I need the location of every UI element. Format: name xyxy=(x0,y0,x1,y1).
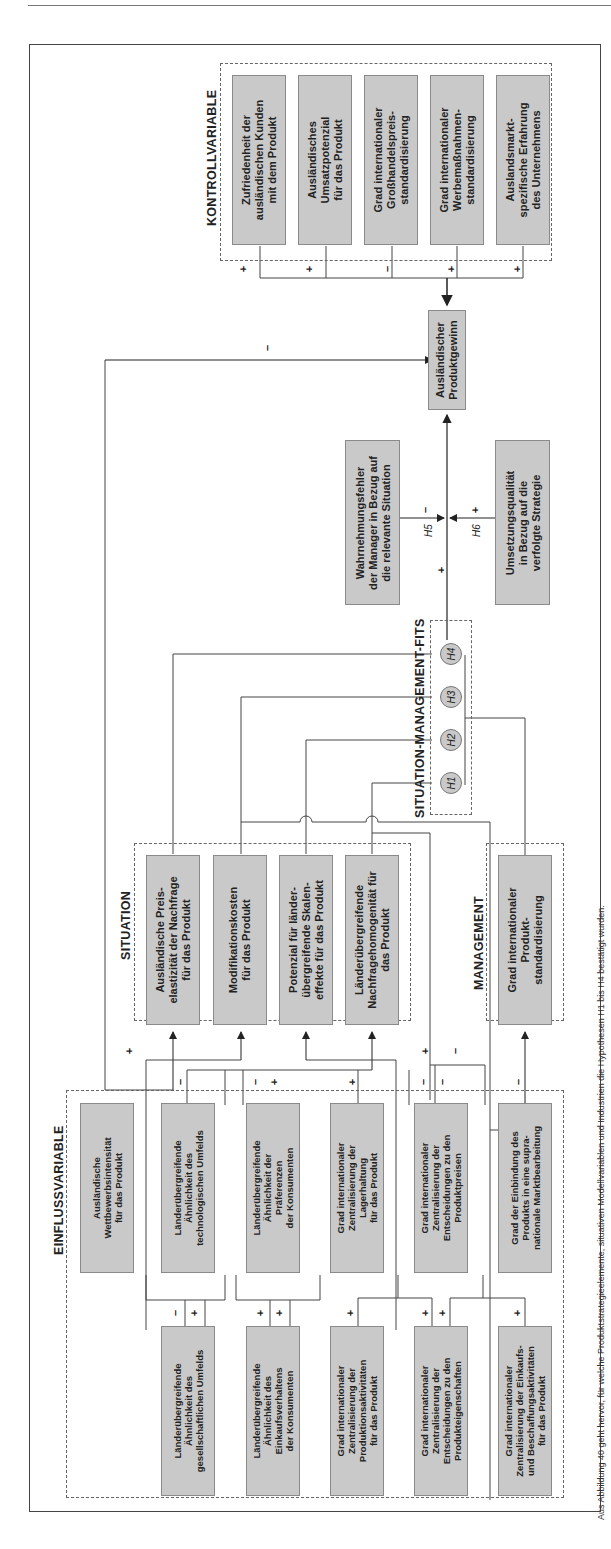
sign: + xyxy=(446,264,456,274)
hypothesis-h2-node: H2 xyxy=(440,729,462,751)
sign: + xyxy=(345,1308,355,1318)
einfluss-box-technologisches-umfeld: Länderübergreifende Ähnlichkeit des tech… xyxy=(161,1103,215,1273)
sign: – xyxy=(175,1077,185,1087)
situation-box-modifikationskosten: Modifikationskosten für das Produkt xyxy=(213,855,267,1025)
sign: – xyxy=(513,1077,523,1087)
hypothesis-h6-label: H6 xyxy=(471,524,482,537)
sign: – xyxy=(418,1077,428,1087)
sign: – xyxy=(450,1046,460,1056)
situation-box-skaleneffekte: Potenzial für länder- übergreifende Skal… xyxy=(279,855,333,1025)
moderator-box-umsetzungsqualitaet: Umsetzungsqualität in Bezug auf die verf… xyxy=(495,440,550,605)
einfluss-box-produktpreise: Grad internationaler Zentralisierung der… xyxy=(414,1103,468,1273)
management-box-produktstandardisierung: Grad internationaler Produkt- standardis… xyxy=(498,855,552,1025)
kontroll-box-kundenzufriedenheit: Zufriedenheit der ausländischen Kunden m… xyxy=(232,75,286,245)
sign: + xyxy=(255,1308,265,1318)
einfluss-box-praeferenzen: Länderübergreifende Ähnlichkeit der Präf… xyxy=(246,1103,300,1273)
sign: – xyxy=(262,343,272,353)
moderator-box-wahrnehmungsfehler: Wahrnehmungsfehler der Manager in Bezug … xyxy=(345,440,400,605)
sign: – xyxy=(170,1308,180,1318)
einfluss-group-label: EINFLUSSVARIABLE xyxy=(52,1125,66,1255)
kontroll-box-auslandserfahrung: Auslandsmarkt- spezifische Erfahrung des… xyxy=(496,75,550,245)
sign: + xyxy=(420,1046,430,1056)
fits-group-label: SITUATION-MANAGEMENT-FITS xyxy=(413,618,427,818)
outcome-box-produktgewinn: Ausländischer Produktgewinn xyxy=(428,310,466,410)
kontroll-box-umsatzpotenzial: Ausländisches Umsatzpotenzial für das Pr… xyxy=(298,75,352,245)
sign: + xyxy=(436,565,446,575)
situation-box-preiselastizitaet: Ausländische Preis- elastizität der Nach… xyxy=(146,855,200,1025)
situation-group-label: SITUATION xyxy=(119,891,133,960)
hypothesis-h1-node: H1 xyxy=(440,772,462,794)
sign: + xyxy=(269,1077,279,1087)
sign: + xyxy=(124,1046,134,1056)
sign: + xyxy=(304,264,314,274)
einfluss-box-einkaufsverhalten: Länderübergreifende Ähnlichkeit des Eink… xyxy=(246,1326,300,1496)
sign: + xyxy=(238,264,248,274)
einfluss-box-supranationale-marktbearbeitung: Grad der Einbindung des Produkts in eine… xyxy=(498,1103,552,1273)
kontroll-box-grosshandelspreis: Grad internationaler Großhandelspreis- s… xyxy=(364,75,418,245)
sign: + xyxy=(189,1308,199,1318)
kontroll-box-werbemassnahmen: Grad internationaler Werbemaßnahmen- sta… xyxy=(430,75,484,245)
sign: + xyxy=(470,505,480,515)
einfluss-box-produkteigenschaften: Grad internationaler Zentralisierung der… xyxy=(414,1326,468,1496)
sign: + xyxy=(437,1308,447,1318)
sign: – xyxy=(382,264,392,274)
sign: + xyxy=(274,1308,284,1318)
sign: – xyxy=(437,1077,447,1087)
einfluss-box-einkauf-beschaffung: Grad internationaler Zentralisierung der… xyxy=(498,1326,552,1496)
sign: + xyxy=(512,264,522,274)
hypothesis-h5-label: H5 xyxy=(423,524,434,537)
figure-caption: Aus Abbildung 40 geht hervor, für welche… xyxy=(596,905,606,1520)
sign: + xyxy=(512,1308,522,1318)
einfluss-box-lagerhaltung: Grad internationaler Zentralisierung der… xyxy=(330,1103,384,1273)
einfluss-group xyxy=(66,1090,564,1498)
einfluss-box-produktionsaktivitaeten: Grad internationaler Zentralisierung der… xyxy=(330,1326,384,1496)
hypothesis-h4-node: H4 xyxy=(440,643,462,665)
kontroll-group-label: KONTROLLVARIABLE xyxy=(205,90,219,226)
sign: + xyxy=(347,1077,357,1087)
sign: – xyxy=(420,505,430,515)
sign: – xyxy=(250,1077,260,1087)
einfluss-box-gesellschaftliches-umfeld: Länderübergreifende Ähnlichkeit des gese… xyxy=(161,1326,215,1496)
sign: + xyxy=(420,1308,430,1318)
management-group-label: MANAGEMENT xyxy=(472,896,486,990)
einfluss-box-wettbewerbsintensitaet: Ausländische Wettbewerbsintensität für d… xyxy=(80,1103,134,1273)
situation-box-nachfragehomogenitaet: Länderübergreifende Nachfragehomogenität… xyxy=(345,855,399,1025)
hypothesis-h3-node: H3 xyxy=(440,686,462,708)
